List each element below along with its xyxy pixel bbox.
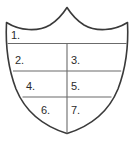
region-label-5: 5. xyxy=(71,81,80,92)
region-label-4: 4. xyxy=(26,81,35,92)
region-label-7: 7. xyxy=(71,105,80,116)
region-label-2: 2. xyxy=(15,55,24,66)
region-label-6: 6. xyxy=(41,105,50,116)
region-label-1: 1. xyxy=(11,30,20,41)
shield-figure: 1. 2. 3. 4. 5. 6. 7. xyxy=(0,0,135,141)
shield-drawing xyxy=(0,0,135,141)
region-label-3: 3. xyxy=(71,55,80,66)
